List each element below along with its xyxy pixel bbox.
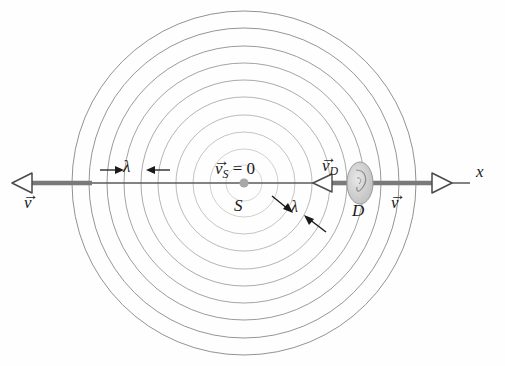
- detector-shape: [347, 162, 373, 204]
- wavefront-diagram-svg: [0, 0, 505, 366]
- left-velocity-label: →v: [24, 194, 32, 211]
- vector-arrow-icon: →: [321, 150, 336, 166]
- right-velocity-label: →v: [391, 194, 399, 211]
- right-velocity-arrow: [372, 173, 452, 193]
- detector-velocity-label: →vD: [322, 157, 338, 178]
- detector-label: D: [352, 202, 364, 219]
- source-velocity-label: →vS = 0: [215, 160, 255, 181]
- wavelength-marker-lower: [272, 196, 326, 232]
- source-point-label: S: [234, 197, 243, 214]
- vector-arrow-icon: →: [214, 153, 229, 169]
- x-axis-label: x: [476, 163, 484, 180]
- vector-arrow-icon: →: [23, 187, 38, 203]
- doppler-effect-figure: →vS = 0 S →v →v →vD D x λ λ: [0, 0, 505, 366]
- wavelength-label-lower: λ: [291, 199, 298, 215]
- vector-arrow-icon: →: [390, 187, 405, 203]
- wavelength-label-left: λ: [123, 158, 130, 175]
